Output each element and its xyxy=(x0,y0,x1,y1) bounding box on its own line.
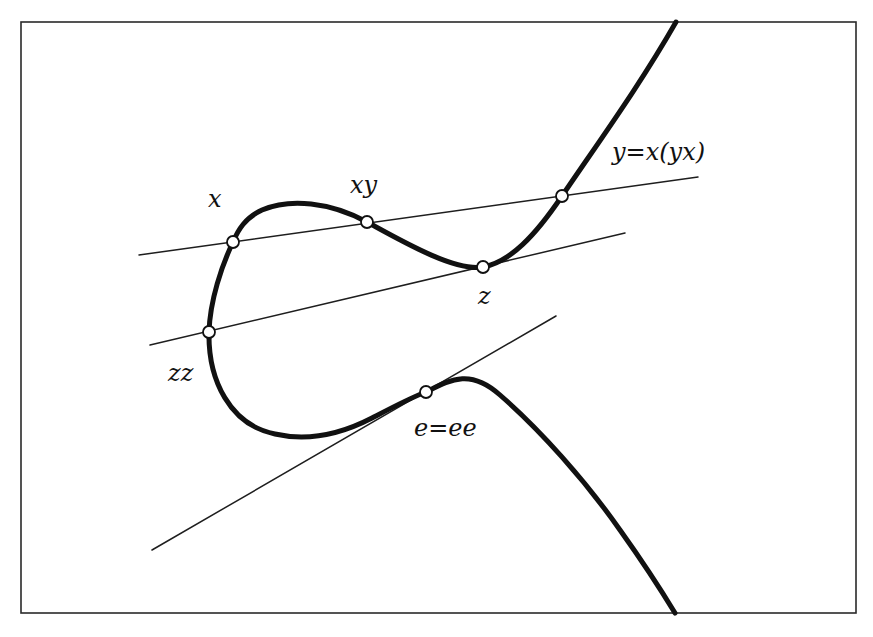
point-y xyxy=(556,190,568,202)
figure-frame xyxy=(21,22,856,613)
point-xy xyxy=(361,216,373,228)
label-xy: xy xyxy=(350,171,378,199)
label-e: e=ee xyxy=(414,414,477,442)
elliptic-curve-diagram: x xy y=x(yx) z zz e=ee xyxy=(0,0,873,637)
point-z xyxy=(477,261,489,273)
tangent-line-z-zz xyxy=(150,233,625,345)
point-x xyxy=(227,236,239,248)
label-zz: zz xyxy=(167,359,194,387)
point-zz xyxy=(203,326,215,338)
point-e xyxy=(420,386,432,398)
label-x: x xyxy=(208,185,222,213)
label-z: z xyxy=(477,282,491,310)
tangent-line-e xyxy=(152,316,556,550)
label-y: y=x(yx) xyxy=(611,138,705,166)
secant-line-x-xy-y xyxy=(139,177,698,255)
cubic-curve xyxy=(209,22,676,613)
